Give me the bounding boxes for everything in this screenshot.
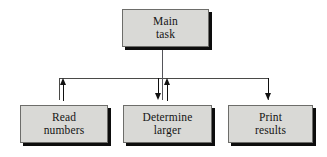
arrow-determine-down-shaft	[158, 78, 159, 94]
arrow-print-results-down-icon	[265, 93, 271, 100]
node-read-numbers-line1: Read	[52, 111, 76, 124]
node-determine-larger-line2: larger	[154, 124, 182, 137]
node-print-results-line1: Print	[259, 111, 282, 124]
node-main-task-line2: task	[156, 28, 175, 41]
structure-chart-diagram: Main task Read numbers Determine larger …	[0, 0, 327, 157]
arrow-determine-up-shaft	[167, 84, 168, 101]
node-read-numbers[interactable]: Read numbers	[20, 105, 108, 143]
node-read-numbers-line2: numbers	[44, 124, 85, 137]
node-print-results-line2: results	[255, 124, 286, 137]
node-print-results[interactable]: Print results	[228, 105, 313, 143]
node-main-task-line1: Main	[153, 15, 178, 28]
node-main-task[interactable]: Main task	[122, 9, 209, 47]
main-task-stem	[162, 47, 163, 100]
node-determine-larger[interactable]: Determine larger	[123, 105, 212, 143]
arrow-print-results-shaft	[268, 78, 269, 94]
node-determine-larger-line1: Determine	[143, 111, 193, 124]
arrow-read-numbers-shaft	[63, 84, 64, 101]
arrow-determine-down-icon	[155, 93, 161, 100]
